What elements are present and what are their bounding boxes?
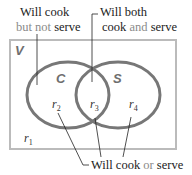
universe-rectangle (10, 40, 176, 149)
leader-r4 (123, 117, 131, 157)
region-r3-label: r3 (90, 97, 99, 113)
venn-diagram: V C S r1 r2 r3 r4 Will cook but not serv… (0, 0, 192, 175)
leader-r2 (58, 113, 89, 165)
annotation-both-line2: cook and serve (102, 20, 177, 34)
annotation-both-line1: Will both (100, 5, 148, 19)
annotation-cook-not-serve-line2: but not serve (16, 20, 81, 34)
annotation-cook-or-serve: Will cook or serve (91, 158, 184, 172)
region-r4-label: r4 (129, 97, 138, 113)
set-s-label: S (113, 71, 122, 86)
set-c-circle (27, 62, 109, 128)
region-r2-label: r2 (52, 97, 61, 113)
region-r1-label: r1 (24, 131, 33, 147)
annotation-cook-not-serve-line1: Will cook (20, 5, 70, 19)
universe-label: V (15, 43, 25, 58)
set-c-label: C (56, 71, 66, 86)
